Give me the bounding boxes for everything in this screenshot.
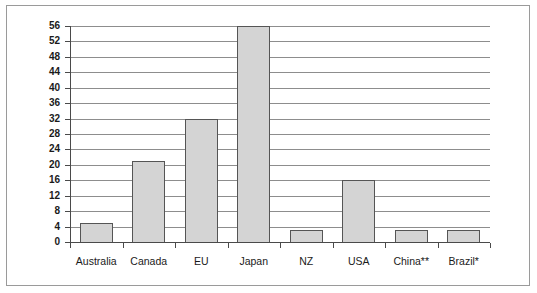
gridline — [70, 88, 490, 89]
x-tick-mark — [438, 243, 439, 248]
y-tick-label: 4 — [20, 222, 60, 232]
y-tick-label-wrap: 44 — [0, 67, 60, 77]
x-tick-mark — [280, 243, 281, 248]
y-tick-label-wrap: 36 — [0, 98, 60, 108]
gridline — [70, 103, 490, 104]
y-tick-label-wrap: 52 — [0, 36, 60, 46]
y-tick-label: 40 — [20, 83, 60, 93]
y-tick-label-wrap: 0 — [0, 237, 60, 247]
bar-chart: 048121620242832364044485256 AustraliaCan… — [0, 0, 537, 293]
y-tick-label-wrap: 8 — [0, 206, 60, 216]
y-tick-label: 20 — [20, 160, 60, 170]
x-axis-label: China** — [385, 255, 438, 267]
y-tick-label-wrap: 28 — [0, 129, 60, 139]
y-tick-label: 52 — [20, 36, 60, 46]
bar — [395, 230, 428, 242]
y-tick-label-wrap: 56 — [0, 21, 60, 31]
x-tick-mark — [490, 243, 491, 248]
bar — [237, 26, 270, 242]
gridline — [70, 134, 490, 135]
bar — [185, 119, 218, 242]
y-tick-label: 56 — [20, 21, 60, 31]
x-tick-mark — [175, 243, 176, 248]
y-tick-label-wrap: 48 — [0, 52, 60, 62]
x-tick-mark — [123, 243, 124, 248]
y-tick-label-wrap: 24 — [0, 144, 60, 154]
y-tick-label: 12 — [20, 191, 60, 201]
x-axis-label: USA — [333, 255, 386, 267]
y-tick-label: 24 — [20, 144, 60, 154]
y-tick-label-wrap: 4 — [0, 222, 60, 232]
x-tick-mark — [70, 243, 71, 248]
x-axis-label: Australia — [70, 255, 123, 267]
x-axis-label: Japan — [228, 255, 281, 267]
gridline — [70, 26, 490, 27]
x-tick-mark — [333, 243, 334, 248]
y-axis-line — [70, 26, 71, 243]
bar — [342, 180, 375, 242]
y-tick-label-wrap: 40 — [0, 83, 60, 93]
gridline — [70, 149, 490, 150]
x-axis-label: NZ — [280, 255, 333, 267]
bar — [447, 230, 480, 242]
gridline — [70, 119, 490, 120]
y-tick-label-wrap: 16 — [0, 175, 60, 185]
y-tick-label: 32 — [20, 114, 60, 124]
bar — [132, 161, 165, 242]
y-tick-label: 28 — [20, 129, 60, 139]
x-axis-label: Canada — [123, 255, 176, 267]
x-tick-mark — [385, 243, 386, 248]
x-tick-mark — [228, 243, 229, 248]
y-tick-label-wrap: 12 — [0, 191, 60, 201]
bar — [80, 223, 113, 242]
gridline — [70, 41, 490, 42]
bar — [290, 230, 323, 242]
y-tick-label-wrap: 32 — [0, 114, 60, 124]
x-axis-label: Brazil* — [438, 255, 491, 267]
x-axis-label: EU — [175, 255, 228, 267]
y-tick-label-wrap: 20 — [0, 160, 60, 170]
y-tick-label: 16 — [20, 175, 60, 185]
gridline — [70, 72, 490, 73]
y-tick-label: 44 — [20, 67, 60, 77]
y-tick-label: 8 — [20, 206, 60, 216]
gridline — [70, 57, 490, 58]
y-tick-label: 36 — [20, 98, 60, 108]
y-tick-label: 0 — [20, 237, 60, 247]
y-tick-label: 48 — [20, 52, 60, 62]
